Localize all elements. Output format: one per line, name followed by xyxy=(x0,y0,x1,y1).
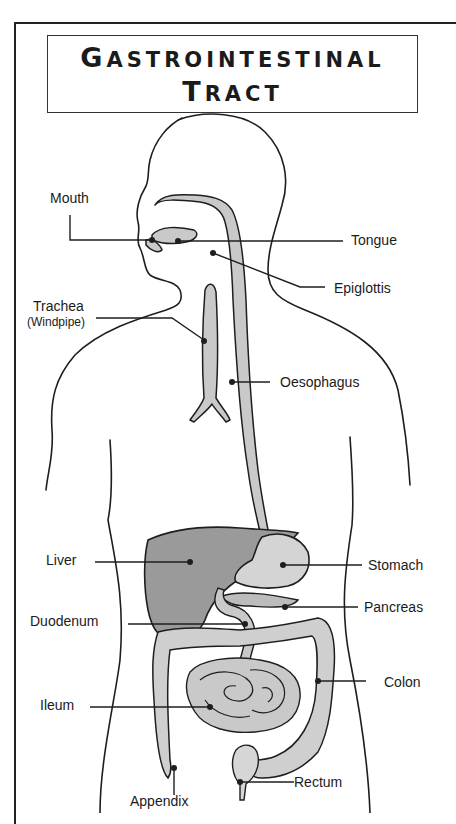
ileum-dot xyxy=(207,704,213,710)
tongue-dot xyxy=(175,238,181,244)
label-stomach: Stomach xyxy=(368,557,423,573)
appendix-dot xyxy=(171,765,177,771)
label-rectum: Rectum xyxy=(294,774,342,790)
label-colon: Colon xyxy=(384,674,421,690)
label-windpipe: (Windpipe) xyxy=(27,315,85,329)
pancreas-dot xyxy=(282,604,288,610)
mouth-leader xyxy=(70,215,152,240)
label-appendix: Appendix xyxy=(130,793,188,809)
label-epiglottis: Epiglottis xyxy=(334,280,391,296)
label-tongue: Tongue xyxy=(351,232,397,248)
stomach-dot xyxy=(280,562,286,568)
label-duodenum: Duodenum xyxy=(30,613,99,629)
trachea-shape xyxy=(190,284,230,422)
label-liver: Liver xyxy=(46,552,76,568)
oesophagus-dot xyxy=(229,379,235,385)
trachea-dot xyxy=(201,338,207,344)
label-ileum: Ileum xyxy=(40,697,74,713)
rectum-dot xyxy=(237,779,243,785)
epiglottis-dot xyxy=(210,250,216,256)
small-intestine-shape xyxy=(187,658,301,732)
mouth-dot xyxy=(149,237,155,243)
rectum-shape xyxy=(233,745,259,800)
label-pancreas: Pancreas xyxy=(364,599,423,615)
label-trachea: Trachea xyxy=(33,298,84,314)
colon-dot xyxy=(315,678,321,684)
label-oesophagus: Oesophagus xyxy=(280,374,359,390)
liver-dot xyxy=(187,559,193,565)
label-mouth: Mouth xyxy=(50,190,89,206)
duodenum-dot xyxy=(242,621,248,627)
